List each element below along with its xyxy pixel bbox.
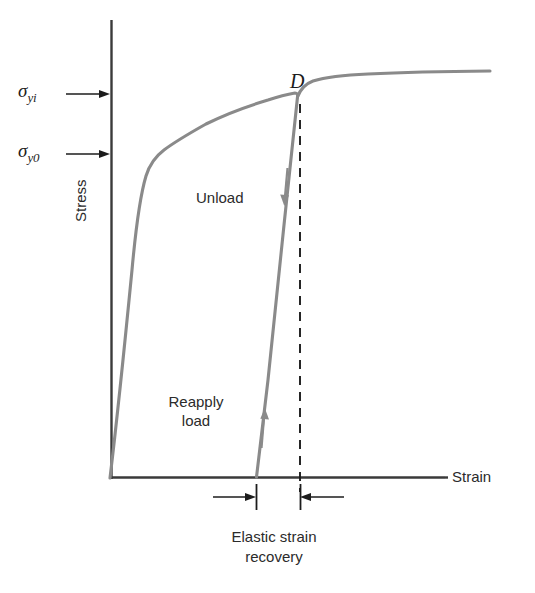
y-axis-label: Stress [72, 179, 89, 222]
sigma-yi-arrow [66, 90, 110, 98]
sigma-yi-subscript: yi [27, 90, 36, 105]
recovery-right-arrow [300, 484, 344, 510]
stress-strain-chart-svg [0, 0, 535, 593]
x-axis-label: Strain [452, 468, 491, 485]
elastic-strain-recovery-annotation: Elastic strain recovery [190, 527, 358, 566]
sigma-y0-arrow [66, 150, 110, 158]
recovery-left-arrow [213, 484, 257, 510]
sigma-yi-symbol: σ [18, 80, 27, 101]
elastic-strain-recovery-line1: Elastic strain [190, 527, 358, 547]
unload-line [257, 97, 298, 477]
sigma-y0-symbol: σ [18, 140, 27, 161]
sigma-yi-label: σyi [18, 80, 37, 106]
unload-annotation: Unload [196, 189, 244, 206]
reapply-load-line1: Reapply [155, 392, 237, 411]
stress-strain-figure: Stress Strain σyi σy0 D Unload Reapply l… [0, 0, 535, 593]
reload-curve [298, 71, 491, 97]
sigma-y0-label: σy0 [18, 140, 40, 166]
reapply-load-annotation: Reapply load [155, 392, 237, 430]
reapply-load-line2: load [155, 411, 237, 430]
sigma-y0-subscript: y0 [27, 150, 39, 165]
point-d-label: D [290, 70, 304, 93]
elastic-strain-recovery-line2: recovery [190, 547, 358, 567]
